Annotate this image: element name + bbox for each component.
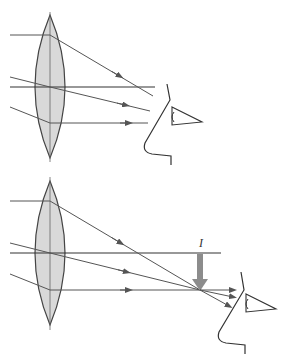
- top-face-profile: [144, 84, 171, 165]
- top-ray-1-arrowhead: [112, 72, 120, 77]
- image-label: I: [198, 236, 204, 250]
- top-eye-icon: [172, 107, 202, 125]
- bottom-panel: I: [10, 177, 276, 354]
- top-ray-3: [10, 107, 148, 123]
- diverging-ray-3: [200, 290, 229, 306]
- image-arrow-shaft: [197, 254, 203, 279]
- bottom-eye-icon: [246, 294, 276, 312]
- top-ray-2-arrowhead: [117, 103, 126, 105]
- diagram: I: [0, 0, 284, 360]
- diverging-ray-2: [200, 290, 233, 297]
- bottom-ray-2-arrowhead: [118, 270, 127, 272]
- bottom-ray-1-arrowhead: [112, 238, 121, 243]
- image-arrow-head: [192, 279, 208, 291]
- bottom-face-profile: [218, 272, 245, 354]
- lens-diagram-canvas: I: [0, 0, 284, 360]
- top-panel: [10, 12, 202, 165]
